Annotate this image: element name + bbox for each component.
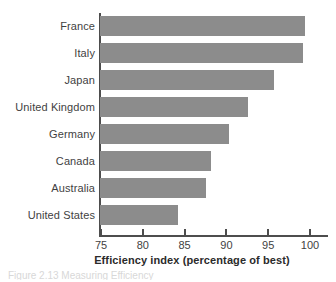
x-tick-label-80: 80 [123,239,163,251]
x-tick-mark-80 [142,229,144,236]
x-tick-label-85: 85 [165,239,205,251]
x-tick-mark-100 [309,229,311,236]
cropped-figure-caption: Figure 2.13 Measuring Efficiency [8,270,208,280]
bar-chart: France Italy Japan United Kingdom German… [0,0,336,282]
x-tick-label-90: 90 [206,239,246,251]
x-tick-mark-95 [267,229,269,236]
x-tick-mark-90 [225,229,227,236]
x-tick-mark-75 [100,229,102,236]
x-tick-label-95: 95 [248,239,288,251]
x-tick-label-75: 75 [81,239,121,251]
x-axis-ticks: 75 80 85 90 95 100 [0,0,336,282]
x-axis-title: Efficiency index (percentage of best) [0,254,336,266]
x-tick-label-100: 100 [290,239,330,251]
x-tick-mark-85 [184,229,186,236]
